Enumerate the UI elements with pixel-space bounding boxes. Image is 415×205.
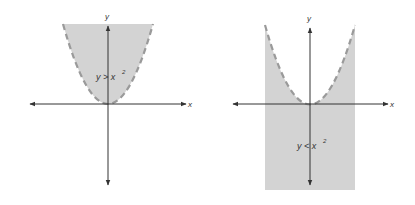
x-label-right: x	[389, 100, 395, 109]
inequality-graphs: x y y > x 2 x y y < x 2	[0, 0, 415, 205]
y-label-left: y	[104, 12, 110, 21]
graph-right: x y y < x 2	[233, 14, 395, 190]
inequality-label-right: y < x	[296, 141, 317, 151]
inequality-label-left: y > x	[95, 72, 116, 82]
exponent-right: 2	[322, 138, 327, 144]
y-label-right: y	[306, 14, 312, 23]
x-label-left: x	[187, 100, 193, 109]
exponent-left: 2	[121, 69, 126, 75]
graph-left: x y y > x 2	[30, 12, 193, 185]
